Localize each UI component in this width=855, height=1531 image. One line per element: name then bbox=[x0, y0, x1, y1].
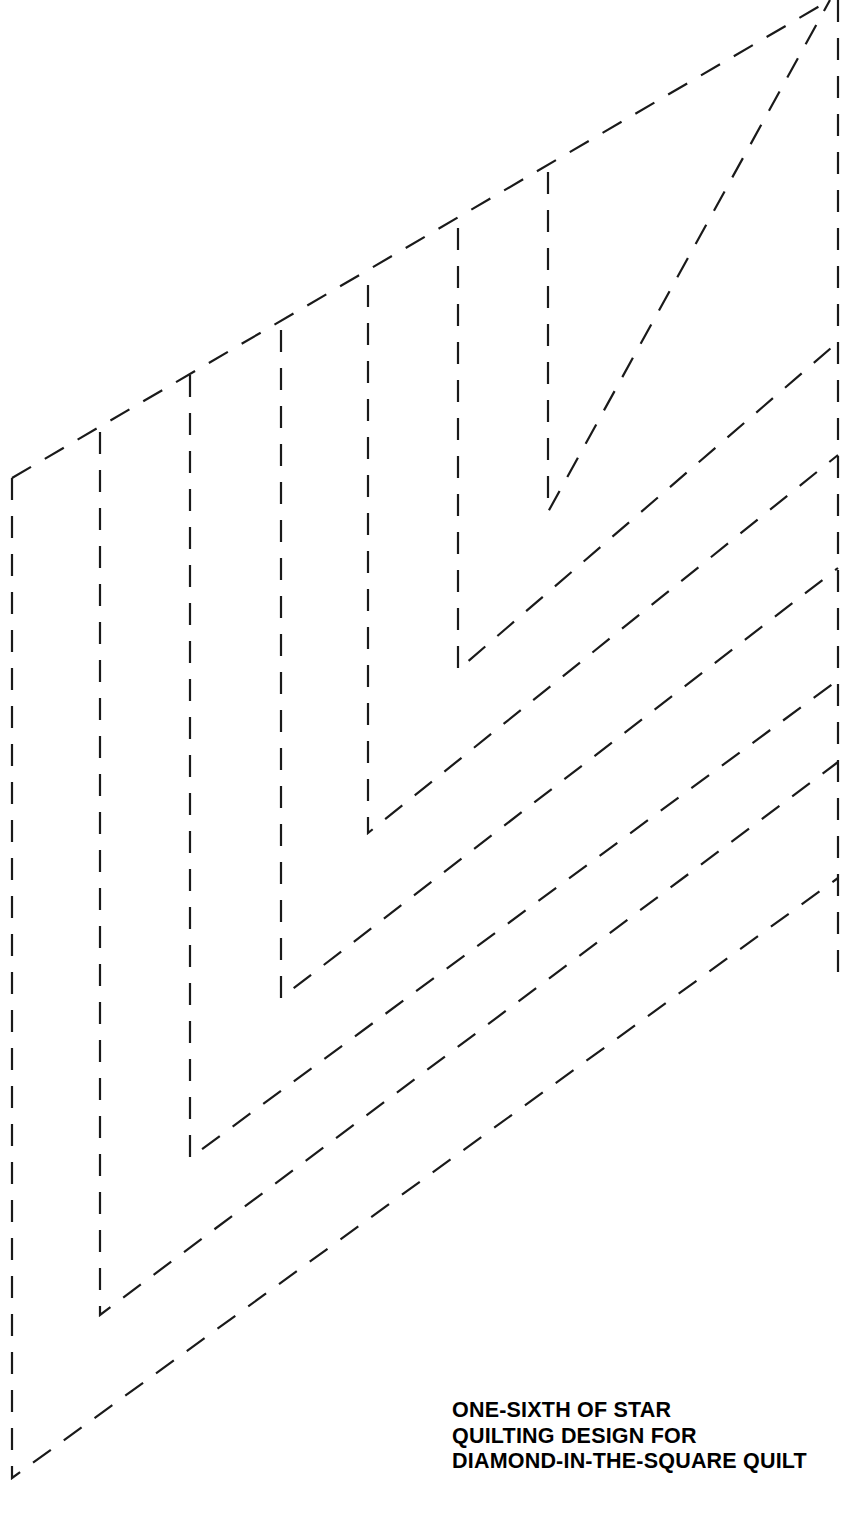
quilt-pattern-canvas bbox=[0, 0, 855, 1531]
quilting-pattern-diagram: ONE-SIXTH OF STAR QUILTING DESIGN FOR DI… bbox=[0, 0, 855, 1531]
canvas-background bbox=[0, 0, 855, 1531]
caption-line-1: ONE-SIXTH OF STAR bbox=[452, 1398, 852, 1424]
caption-line-3: DIAMOND-IN-THE-SQUARE QUILT bbox=[452, 1449, 852, 1475]
caption: ONE-SIXTH OF STAR QUILTING DESIGN FOR DI… bbox=[452, 1398, 852, 1475]
caption-line-2: QUILTING DESIGN FOR bbox=[452, 1424, 852, 1450]
